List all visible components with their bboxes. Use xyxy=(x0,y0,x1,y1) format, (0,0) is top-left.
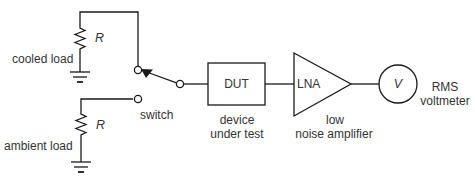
switch-label: switch xyxy=(140,108,173,122)
ambient-load-branch xyxy=(71,99,133,172)
ambient-resistor-icon xyxy=(76,112,86,162)
ambient-ground-icon xyxy=(71,162,91,172)
lna-caption-line2: noise amplifier xyxy=(284,127,384,141)
cooled-load-branch xyxy=(70,12,138,82)
voltmeter-caption-line1: RMS xyxy=(420,80,470,94)
cooled-load-wire xyxy=(80,12,138,66)
ambient-resistor-label: R xyxy=(96,118,105,132)
cooled-ground-icon xyxy=(70,72,90,82)
voltmeter-caption-line2: voltmeter xyxy=(415,94,475,108)
dut-caption-line2: under test xyxy=(199,127,275,141)
ambient-load-wire xyxy=(81,99,133,112)
cooled-load-label: cooled load xyxy=(12,52,73,66)
ambient-load-label: ambient load xyxy=(4,139,73,153)
voltmeter-symbol: V xyxy=(379,77,417,91)
lna-caption-line1: low xyxy=(290,113,380,127)
cooled-resistor-icon xyxy=(75,26,85,72)
lna-box-text: LNA xyxy=(297,77,320,91)
cooled-resistor-label: R xyxy=(95,31,104,45)
dut-box-text: DUT xyxy=(208,77,265,91)
dut-caption-line1: device xyxy=(199,113,275,127)
switch-icon xyxy=(134,66,183,102)
